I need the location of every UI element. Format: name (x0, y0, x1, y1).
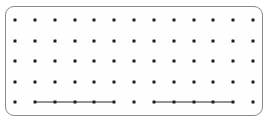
lattice-panel (5, 6, 263, 116)
figure-canvas (0, 0, 269, 123)
